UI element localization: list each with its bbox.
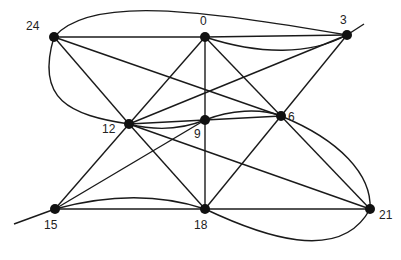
edge-6-18: [205, 116, 281, 209]
graph-edges: [14, 11, 370, 241]
node-label-3: 3: [340, 13, 347, 27]
node-label-21: 21: [379, 208, 393, 222]
edge-3-12: [129, 35, 347, 124]
graph-diagram: 24031296151821: [0, 0, 401, 260]
graph-nodes: [49, 30, 375, 214]
node-0: [200, 32, 210, 42]
node-label-9: 9: [194, 127, 201, 141]
node-15: [50, 204, 60, 214]
node-label-18: 18: [194, 218, 208, 232]
node-label-24: 24: [26, 19, 40, 33]
node-3: [342, 30, 352, 40]
node-24: [49, 32, 59, 42]
node-label-12: 12: [102, 122, 116, 136]
node-12: [124, 119, 134, 129]
node-18: [200, 204, 210, 214]
edge-0-3: [205, 35, 347, 37]
edge-0-6: [205, 37, 281, 116]
node-label-15: 15: [44, 218, 58, 232]
edge-9-15: [55, 120, 205, 209]
node-9: [200, 115, 210, 125]
edge-12-21: [129, 124, 370, 209]
node-label-6: 6: [288, 110, 295, 124]
node-6: [276, 111, 286, 121]
edge-18-21-curved: [205, 209, 370, 241]
edge-15-18-curved: [55, 198, 205, 209]
node-21: [365, 204, 375, 214]
edge-12-15: [55, 124, 129, 209]
edge-6-21: [281, 116, 370, 209]
edge-0-12: [129, 37, 205, 124]
node-label-0: 0: [200, 14, 207, 28]
